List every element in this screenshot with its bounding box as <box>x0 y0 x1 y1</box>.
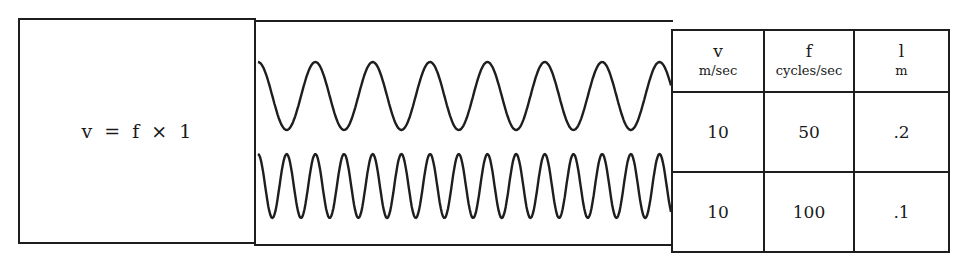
wave-diagram <box>256 22 675 248</box>
header-unit: cycles/sec <box>765 61 853 81</box>
header-frequency: f cycles/sec <box>764 30 854 92</box>
wave-data-table: v m/sec f cycles/sec l m 10 50 .2 10 100… <box>671 29 950 253</box>
cell-frequency: 50 <box>764 92 854 172</box>
header-symbol: v <box>673 41 763 61</box>
wave-panel <box>254 20 673 246</box>
table-row: 10 100 .1 <box>672 172 949 252</box>
cell-velocity: 10 <box>672 92 764 172</box>
header-symbol: f <box>765 41 853 61</box>
wave-high-frequency <box>258 154 671 218</box>
table-header-row: v m/sec f cycles/sec l m <box>672 30 949 92</box>
header-unit: m <box>855 61 948 81</box>
formula-box: v = f × 1 <box>18 18 256 244</box>
formula-text: v = f × 1 <box>82 120 193 142</box>
cell-wavelength: .2 <box>854 92 949 172</box>
wave-low-frequency <box>258 62 671 130</box>
header-symbol: l <box>855 41 948 61</box>
cell-frequency: 100 <box>764 172 854 252</box>
table-row: 10 50 .2 <box>672 92 949 172</box>
cell-velocity: 10 <box>672 172 764 252</box>
header-unit: m/sec <box>673 61 763 81</box>
header-velocity: v m/sec <box>672 30 764 92</box>
cell-wavelength: .1 <box>854 172 949 252</box>
header-wavelength: l m <box>854 30 949 92</box>
